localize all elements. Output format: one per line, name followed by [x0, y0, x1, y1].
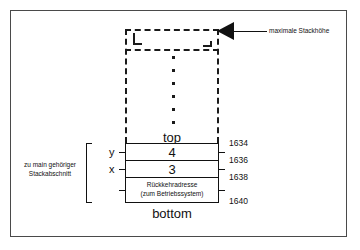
variable-label-y: y [109, 147, 115, 158]
main-stack-section-label-line1: zu main gehöriger [24, 161, 76, 168]
row-tick-left [119, 190, 126, 191]
main-stack-section-label-line2: Stackabschnitt [29, 170, 71, 177]
stack-row-y: 4 [126, 144, 218, 161]
max-stack-inner-edge [125, 49, 219, 51]
row-tick-right [218, 152, 225, 153]
stack-cell-value: 4 [168, 146, 175, 159]
stack-diagram-figure: maximale Stackhöhe top 4 3 Rückkehradres… [0, 0, 360, 250]
max-stack-arrow-icon [217, 22, 234, 40]
address-1636: 1636 [229, 156, 248, 165]
main-stack-section-label: zu main gehöriger Stackabschnitt [19, 161, 81, 179]
ellipsis-dot [172, 95, 175, 98]
stack-row-x: 3 [126, 161, 218, 178]
ellipsis-dot [172, 121, 175, 124]
max-stack-top-edge [125, 29, 219, 31]
stack-ellipsis [171, 56, 175, 124]
figure-frame: maximale Stackhöhe top 4 3 Rückkehradres… [10, 10, 347, 237]
stack-cell-value: 3 [168, 163, 175, 176]
stack-frame-corner-mark-right [203, 41, 212, 47]
row-tick-right [218, 190, 225, 191]
stack-frame-table: 4 3 Rückkehradresse (zum Betriebssystem) [125, 143, 219, 203]
stack-cell-return-address: Rückkehradresse (zum Betriebssystem) [141, 181, 204, 199]
ellipsis-dot [172, 56, 175, 59]
stack-row-return-address: Rückkehradresse (zum Betriebssystem) [126, 178, 218, 202]
return-address-line2: (zum Betriebssystem) [141, 190, 204, 197]
address-1640: 1640 [229, 197, 248, 206]
ellipsis-dot [172, 82, 175, 85]
ellipsis-dot [172, 69, 175, 72]
row-tick-left [119, 152, 126, 153]
stack-frame-corner-mark [133, 33, 142, 45]
address-1638: 1638 [229, 173, 248, 182]
address-1634: 1634 [229, 139, 248, 148]
stack-bottom-caption: bottom [125, 207, 219, 220]
return-address-line1: Rückkehradresse [147, 181, 198, 188]
ellipsis-dot [172, 108, 175, 111]
max-stack-height-label: maximale Stackhöhe [269, 27, 329, 35]
variable-label-x: x [109, 164, 115, 175]
main-stack-section-bracket [86, 143, 92, 203]
max-stack-arrow-shaft [233, 31, 267, 32]
row-tick-right [218, 169, 225, 170]
row-tick-left [119, 169, 126, 170]
